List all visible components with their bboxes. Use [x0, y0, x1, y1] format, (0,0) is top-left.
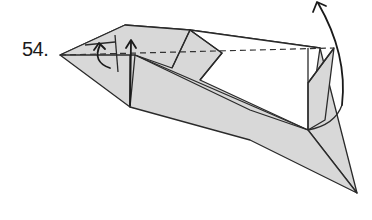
fold-up-arrow-small-center: [130, 42, 131, 105]
origami-diagram: [0, 0, 372, 220]
